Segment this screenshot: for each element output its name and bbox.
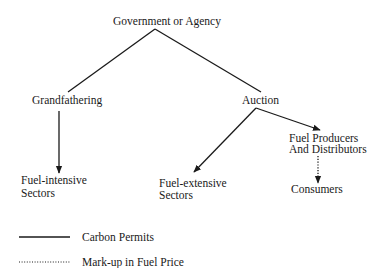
node-auction: Auction: [242, 94, 279, 106]
node-fuel-extensive-line1: Fuel-extensive: [159, 177, 227, 189]
node-fuel-extensive-line2: Sectors: [159, 189, 193, 201]
node-government: Government or Agency: [113, 15, 221, 27]
edge-root-auction: [155, 29, 261, 92]
node-consumers: Consumers: [291, 183, 343, 195]
node-producers-line2: And Distributors: [289, 143, 367, 155]
node-grandfathering: Grandfathering: [32, 94, 102, 106]
legend-markup-fuel-price: Mark-up in Fuel Price: [82, 256, 184, 268]
node-fuel-intensive-line1: Fuel-intensive: [21, 174, 87, 186]
node-fuel-intensive-line2: Sectors: [21, 187, 55, 199]
edge-auction-extensive: [194, 108, 256, 172]
edge-auction-producers: [256, 108, 320, 130]
edge-root-grandfathering: [68, 29, 155, 92]
legend-carbon-permits: Carbon Permits: [82, 231, 154, 243]
